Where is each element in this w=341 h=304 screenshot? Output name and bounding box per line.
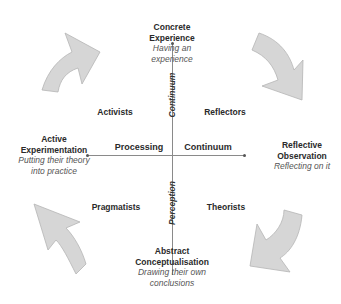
concrete-experience-title-2: Experience xyxy=(122,33,222,44)
reflective-observation-title-2: Observation xyxy=(262,151,341,162)
abstract-conceptualisation-desc-1: Drawing their own xyxy=(112,267,232,278)
quadrant-active-experimentation: Active Experimentation Putting their the… xyxy=(8,134,100,176)
active-experimentation-desc-2: into practice xyxy=(8,166,100,177)
style-theorists: Theorists xyxy=(186,202,266,213)
abstract-conceptualisation-desc-2: conclusions xyxy=(112,278,232,289)
reflective-observation-title-1: Reflective xyxy=(262,140,341,151)
abstract-conceptualisation-title-1: Abstract xyxy=(112,246,232,257)
axis-label-continuum-horizontal: Continuum xyxy=(178,142,238,153)
quadrant-reflective-observation: Reflective Observation Reflecting on it xyxy=(262,140,341,172)
active-experimentation-title-1: Active xyxy=(8,134,100,145)
horizontal-axis xyxy=(88,155,244,156)
style-pragmatists: Pragmatists xyxy=(76,202,156,213)
active-experimentation-title-2: Experimentation xyxy=(8,145,100,156)
concrete-experience-desc-2: experience xyxy=(122,54,222,65)
reflective-observation-desc-1: Reflecting on it xyxy=(262,161,341,172)
axis-end-right xyxy=(243,154,246,157)
concrete-experience-desc-1: Having an xyxy=(122,43,222,54)
active-experimentation-desc-1: Putting their theory xyxy=(8,155,100,166)
quadrant-abstract-conceptualisation: Abstract Conceptualisation Drawing their… xyxy=(112,246,232,288)
axis-label-continuum-vertical: Continuum xyxy=(167,65,177,125)
abstract-conceptualisation-title-2: Conceptualisation xyxy=(112,257,232,268)
axis-label-perception: Perception xyxy=(167,173,177,233)
quadrant-concrete-experience: Concrete Experience Having an experience xyxy=(122,22,222,64)
style-activists: Activists xyxy=(80,107,150,118)
style-reflectors: Reflectors xyxy=(190,107,260,118)
axis-label-processing: Processing xyxy=(108,142,170,153)
concrete-experience-title-1: Concrete xyxy=(122,22,222,33)
